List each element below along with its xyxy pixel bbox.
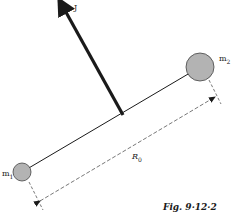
extension-line-2 bbox=[209, 80, 221, 104]
mass-1-label: m1 bbox=[2, 169, 13, 180]
rod bbox=[22, 67, 200, 172]
rigid-rotor-diagram: J m2 m1 R0 Fig. 9·12·2 bbox=[0, 0, 234, 213]
vector-label-j: J bbox=[73, 3, 77, 12]
distance-label: R0 bbox=[131, 152, 142, 163]
mass-1-circle bbox=[13, 163, 31, 181]
mass-2-label: m2 bbox=[219, 54, 231, 65]
distance-dimension-line bbox=[40, 97, 215, 201]
figure-caption: Fig. 9·12·2 bbox=[162, 202, 217, 212]
extension-line-1 bbox=[29, 182, 43, 210]
angular-momentum-arrow bbox=[62, 5, 123, 115]
mass-2-circle bbox=[186, 53, 214, 81]
